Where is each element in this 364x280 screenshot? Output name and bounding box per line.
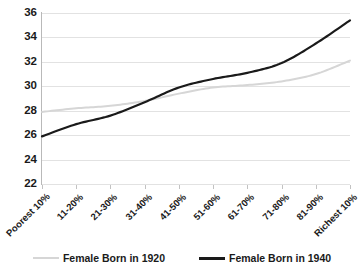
gridline — [42, 184, 350, 185]
y-axis-tick-label: 34 — [9, 31, 37, 43]
x-axis-tick — [76, 185, 77, 189]
x-axis-tick — [316, 185, 317, 189]
plot-area — [42, 13, 350, 184]
y-axis-tick-label: 32 — [9, 56, 37, 68]
chart-legend: Female Born in 1920 Female Born in 1940 — [0, 252, 364, 264]
legend-label: Female Born in 1940 — [229, 252, 331, 264]
series-line-female-born-1920 — [42, 61, 350, 112]
y-axis-tick-label: 30 — [9, 80, 37, 92]
x-axis-tick — [350, 185, 351, 189]
x-axis-tick — [145, 185, 146, 189]
legend-label: Female Born in 1920 — [63, 252, 165, 264]
series-layer — [42, 13, 350, 184]
x-axis-tick — [247, 185, 248, 189]
x-axis-tick — [282, 185, 283, 189]
black-line-swatch-icon — [199, 257, 225, 260]
y-axis-tick-label: 26 — [9, 129, 37, 141]
y-axis-tick-label: 22 — [9, 178, 37, 190]
gray-line-swatch-icon — [33, 257, 59, 259]
x-axis-tick — [179, 185, 180, 189]
legend-item-female-born-1920: Female Born in 1920 — [33, 252, 165, 264]
legend-item-female-born-1940: Female Born in 1940 — [199, 252, 331, 264]
x-axis-tick — [110, 185, 111, 189]
x-axis-tick — [213, 185, 214, 189]
line-chart: 2224262830323436 Poorest 10%11-20%21-30%… — [0, 0, 364, 280]
y-axis-tick-label: 28 — [9, 105, 37, 117]
y-axis-tick-label: 36 — [9, 7, 37, 19]
y-axis-tick-label: 24 — [9, 154, 37, 166]
x-axis-tick — [42, 185, 43, 189]
series-line-female-born-1940 — [42, 20, 350, 136]
